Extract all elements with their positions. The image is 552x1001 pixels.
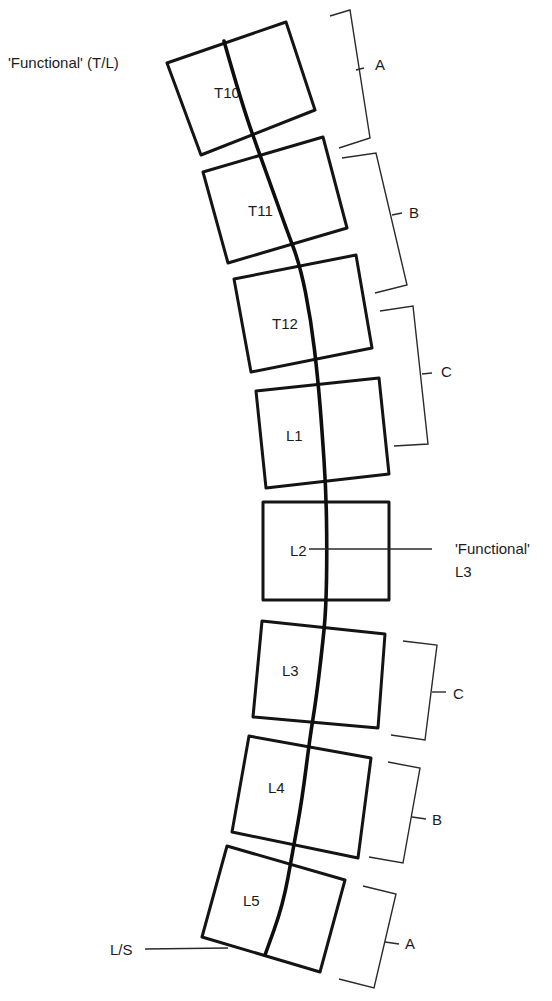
segment-bracket-b: B [369,762,442,863]
functional-l3-label-line2: L3 [455,563,472,580]
bracket-tick [422,373,432,374]
vertebra-label: L3 [282,662,299,679]
bracket-line [330,10,370,148]
bracket-label: A [405,935,415,952]
bracket-label: A [375,56,385,73]
bracket-label: C [441,363,452,380]
vertebra-label: T11 [248,202,273,219]
vertebral-body-outline [234,255,372,372]
vertebra-label: L5 [243,892,260,909]
vertebra-l5: L5 [202,846,345,972]
segment-brackets-group: ABCCBA [330,10,464,988]
vertebral-body-outline [202,846,345,972]
segment-bracket-c: C [380,306,452,446]
vertebral-body-outline [167,22,315,155]
bracket-tick [392,213,402,215]
spine-diagram: T10T11T12L1L2L3L4L5 ABCCBA 'Functional' … [0,0,552,1001]
bracket-tick [385,942,399,944]
vertebra-label: T12 [272,315,298,332]
vertebra-label: L1 [286,427,303,444]
bracket-tick [412,817,426,819]
vertebra-t10: T10 [167,22,315,155]
lumbosacral-label: L/S [110,941,133,958]
segment-bracket-b: B [342,153,419,293]
vertebra-t12: T12 [234,255,372,372]
segment-bracket-a: A [330,10,385,148]
bracket-tick [356,68,364,70]
vertebra-label: L4 [268,779,285,796]
functional-l3-label-line1: 'Functional' [455,540,530,557]
leader-lines-group [145,549,432,949]
segment-bracket-a: A [339,886,415,988]
bracket-line [369,762,420,863]
vertebrae-group: T10T11T12L1L2L3L4L5 [167,22,389,972]
bracket-line [342,153,407,293]
ls-leader [145,948,228,949]
bracket-label: C [453,685,464,702]
bracket-line [391,641,437,740]
bracket-label: B [409,204,419,221]
functional-tl-label: 'Functional' (T/L) [8,54,119,71]
vertebra-label: L2 [290,542,307,559]
spinal-axis-curve [224,41,327,955]
bracket-line [339,886,396,988]
bracket-line [380,306,428,446]
segment-bracket-c: C [391,641,464,740]
bracket-label: B [432,811,442,828]
